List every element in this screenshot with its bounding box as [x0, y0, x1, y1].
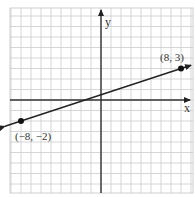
point-a-label: (8, 3) — [160, 51, 184, 64]
x-axis-label: x — [184, 101, 190, 115]
point-b-label: (−8, −2) — [15, 130, 52, 143]
coordinate-plane: x y (8, 3) (−8, −2) — [0, 0, 195, 197]
point-neg8-neg2 — [18, 118, 24, 124]
point-8-3 — [178, 66, 184, 72]
y-axis-label: y — [105, 15, 111, 29]
